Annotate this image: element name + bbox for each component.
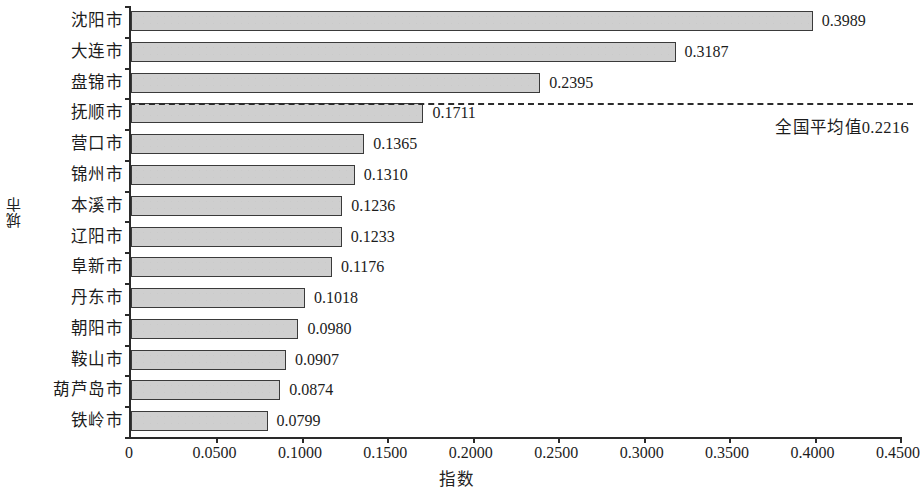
- bar: [131, 42, 676, 62]
- bar: [131, 380, 280, 400]
- chart-row: 鞍山市0.0907: [131, 345, 900, 376]
- x-axis-tick-label: 0.0500: [192, 444, 236, 462]
- x-axis-tick-label: 0.1500: [363, 444, 407, 462]
- x-axis-tick-label: 0.2500: [534, 444, 578, 462]
- category-label: 抚顺市: [71, 98, 124, 129]
- bar: [131, 134, 364, 154]
- x-axis-tick: [387, 437, 389, 443]
- national-average-label: 全国平均值0.2216: [775, 114, 909, 138]
- bar-value-label: 0.1233: [351, 227, 395, 247]
- x-axis-tick: [558, 437, 560, 443]
- y-axis-tick: [125, 6, 131, 8]
- bar: [131, 103, 423, 123]
- category-label: 营口市: [71, 129, 124, 160]
- y-axis-title: 城市: [6, 196, 32, 228]
- bar-value-label: 0.2395: [549, 73, 593, 93]
- x-axis-tick-label: 0.4000: [791, 444, 835, 462]
- x-axis-tick-label: 0: [125, 444, 133, 462]
- x-axis-tick-label: 0.3500: [705, 444, 749, 462]
- bar-value-label: 0.0874: [289, 380, 333, 400]
- bar: [131, 73, 540, 93]
- bar: [131, 319, 298, 339]
- chart-row: 辽阳市0.1233: [131, 222, 900, 253]
- category-label: 沈阳市: [71, 6, 124, 37]
- chart-row: 丹东市0.1018: [131, 283, 900, 314]
- x-axis-tick-label: 0.3000: [620, 444, 664, 462]
- chart-row: 铁岭市0.0799: [131, 406, 900, 437]
- bar: [131, 165, 355, 185]
- bar-value-label: 0.1236: [351, 196, 395, 216]
- bar-value-label: 0.0980: [307, 319, 351, 339]
- category-label: 葫芦岛市: [53, 375, 123, 406]
- bar-value-label: 0.1365: [373, 134, 417, 154]
- chart-row: 朝阳市0.0980: [131, 314, 900, 345]
- bar: [131, 196, 342, 216]
- chart-row: 阜新市0.1176: [131, 252, 900, 283]
- x-axis-tick: [729, 437, 731, 443]
- x-axis-tick: [644, 437, 646, 443]
- category-label: 本溪市: [71, 191, 124, 222]
- bar: [131, 411, 268, 431]
- national-average-line: [129, 103, 913, 105]
- x-axis-tick-label: 0.1000: [278, 444, 322, 462]
- x-axis-tick: [216, 437, 218, 443]
- y-axis-tick: [125, 437, 131, 439]
- bar-value-label: 0.3187: [685, 42, 729, 62]
- x-axis-title: 指数: [0, 466, 913, 490]
- x-axis-tick: [815, 437, 817, 443]
- category-label: 锦州市: [71, 160, 124, 191]
- x-axis-tick: [302, 437, 304, 443]
- x-axis-tick: [473, 437, 475, 443]
- bar-value-label: 0.0907: [295, 350, 339, 370]
- category-label: 鞍山市: [71, 345, 124, 376]
- bar-value-label: 0.1310: [364, 165, 408, 185]
- bar: [131, 350, 286, 370]
- chart-row: 葫芦岛市0.0874: [131, 375, 900, 406]
- x-axis-tick-label: 0.4500: [876, 444, 920, 462]
- category-label: 阜新市: [71, 252, 124, 283]
- category-label: 辽阳市: [71, 222, 124, 253]
- bar: [131, 227, 342, 247]
- chart-row: 沈阳市0.3989: [131, 6, 900, 37]
- chart-row: 大连市0.3187: [131, 37, 900, 68]
- bar: [131, 11, 813, 31]
- bar: [131, 288, 305, 308]
- category-label: 大连市: [71, 37, 124, 68]
- chart-row: 锦州市0.1310: [131, 160, 900, 191]
- chart-row: 本溪市0.1236: [131, 191, 900, 222]
- bar-value-label: 0.1018: [314, 288, 358, 308]
- category-label: 丹东市: [71, 283, 124, 314]
- bar: [131, 257, 332, 277]
- bar-value-label: 0.1711: [432, 103, 475, 123]
- chart-row: 盘锦市0.2395: [131, 68, 900, 99]
- x-axis-tick-label: 0.2000: [449, 444, 493, 462]
- x-axis-tick: [900, 437, 902, 443]
- bar-value-label: 0.3989: [822, 11, 866, 31]
- bar-value-label: 0.1176: [341, 257, 384, 277]
- category-label: 铁岭市: [71, 406, 124, 437]
- category-label: 盘锦市: [71, 68, 124, 99]
- category-label: 朝阳市: [71, 314, 124, 345]
- plot-area: 沈阳市0.3989大连市0.3187盘锦市0.2395抚顺市0.1711营口市0…: [129, 6, 900, 439]
- bar-value-label: 0.0799: [277, 411, 321, 431]
